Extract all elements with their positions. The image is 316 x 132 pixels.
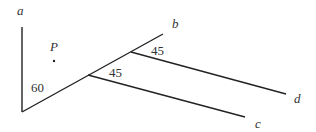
- line-b: [22, 34, 163, 112]
- label-b: b: [172, 16, 179, 31]
- line-c: [88, 75, 245, 117]
- point-p-dot: [53, 60, 55, 62]
- geometry-diagram: a b c d P 60 45 45: [0, 0, 316, 132]
- angle-label-60: 60: [31, 80, 44, 95]
- label-point-p: P: [49, 39, 58, 54]
- angle-label-lower-45: 45: [109, 65, 122, 80]
- line-d: [131, 52, 286, 94]
- label-a: a: [17, 3, 24, 18]
- angle-label-upper-45: 45: [151, 43, 164, 58]
- label-d: d: [294, 91, 301, 106]
- label-c: c: [255, 116, 261, 131]
